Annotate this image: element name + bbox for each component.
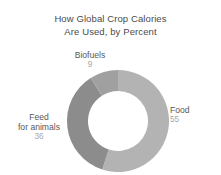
slice-label-food: Food 55 [170,105,218,125]
chart-canvas: How Global Crop Calories Are Used, by Pe… [0,0,221,175]
donut-chart [0,0,221,175]
slice-label-biofuels: Biofuels 9 [53,50,127,70]
slice-value-food: 55 [170,115,218,125]
slice-label-food-text: Food [170,105,218,115]
slice-label-feed-text-2: for animals [2,122,76,132]
donut-slices [67,70,169,172]
slice-label-biofuels-text: Biofuels [53,50,127,60]
slice-value-feed: 36 [2,132,76,142]
slice-value-biofuels: 9 [53,60,127,70]
slice-label-feed: Feed for animals 36 [2,112,76,143]
slice-label-feed-text-1: Feed [2,112,76,122]
